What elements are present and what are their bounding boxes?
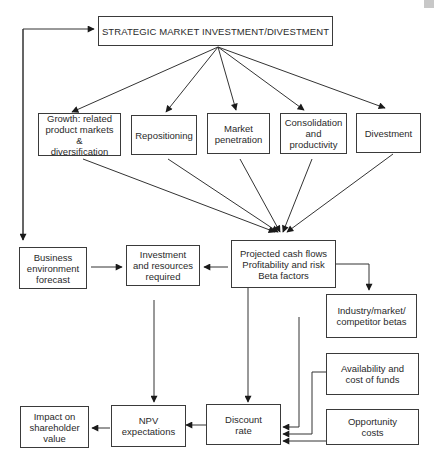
node-availability-cost-of-funds: Availability and cost of funds	[326, 353, 419, 395]
node-shareholder-value: Impact on shareholder value	[20, 406, 89, 448]
node-business-environment-forecast: Business environment forecast	[19, 247, 87, 289]
node-projected-cash-flows: Projected cash flows Profitability and r…	[231, 240, 336, 288]
node-npv-expectations: NPV expectations	[111, 405, 186, 447]
node-discount-rate: Discount rate	[206, 404, 281, 445]
node-repositioning: Repositioning	[131, 115, 197, 155]
node-investment-resources: Investment and resources required	[126, 245, 200, 286]
node-growth: Growth: related product markets & divers…	[38, 113, 121, 156]
node-consolidation: Consolidation and productivity	[280, 113, 347, 154]
node-market-penetration: Market penetration	[207, 113, 270, 154]
node-strategic-market-investment: STRATEGIC MARKET INVESTMENT/DIVESTMENT	[98, 16, 333, 46]
node-divestment: Divestment	[356, 113, 421, 153]
node-industry-betas: Industry/market/ competitor betas	[326, 294, 417, 338]
node-opportunity-costs: Opportunity costs	[326, 409, 419, 445]
